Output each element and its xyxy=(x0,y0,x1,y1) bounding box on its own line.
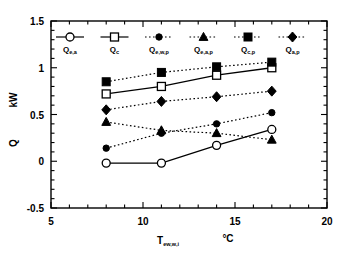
data-point-marker xyxy=(213,141,221,149)
data-point-marker xyxy=(157,68,165,76)
data-point-marker xyxy=(66,33,74,41)
data-point-marker xyxy=(213,71,221,79)
data-point-marker xyxy=(213,63,221,71)
y-tick-label: 1 xyxy=(38,63,44,74)
data-point-marker xyxy=(102,78,110,86)
y-tick-label: 0.5 xyxy=(30,110,44,121)
data-point-marker xyxy=(268,125,276,133)
x-tick-label: 15 xyxy=(229,216,241,227)
data-point-marker xyxy=(111,33,119,41)
x-tick-label: 5 xyxy=(48,216,54,227)
data-point-marker xyxy=(269,109,275,115)
y-axis-title: Q xyxy=(8,139,19,147)
y-tick-label: -0.5 xyxy=(27,203,45,214)
data-point-marker xyxy=(102,159,110,167)
x-axis-unit: °C xyxy=(222,233,233,244)
chart-canvas: 5101520-0.500.511.5 Qe,aQcQe,w,pQe,a,pQc… xyxy=(0,0,348,261)
data-point-marker xyxy=(102,90,110,98)
data-point-marker xyxy=(157,82,165,90)
data-point-marker xyxy=(213,121,219,127)
data-point-marker xyxy=(156,34,162,40)
y-tick-label: 0 xyxy=(38,156,44,167)
x-tick-label: 20 xyxy=(321,216,333,227)
data-point-marker xyxy=(268,58,276,66)
x-tick-label: 10 xyxy=(137,216,149,227)
y-axis-unit: kW xyxy=(8,92,19,108)
data-point-marker xyxy=(103,145,109,151)
chart-figure: 5101520-0.500.511.5 Qe,aQcQe,w,pQe,a,pQc… xyxy=(0,0,348,261)
y-tick-label: 1.5 xyxy=(30,16,44,27)
data-point-marker xyxy=(244,33,252,41)
data-point-marker xyxy=(157,159,165,167)
